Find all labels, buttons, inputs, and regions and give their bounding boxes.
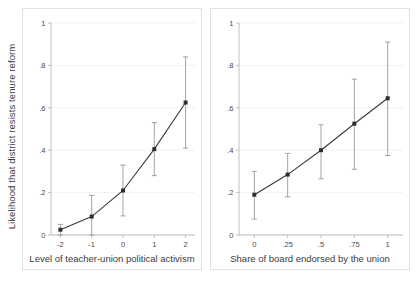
data-point-marker xyxy=(152,147,156,151)
data-point-marker xyxy=(386,96,390,100)
line-chart-left: 0.2.4.6.81-2-1012 xyxy=(23,9,201,269)
data-point-marker xyxy=(252,193,256,197)
plot-area-left: 0.2.4.6.81-2-1012 xyxy=(23,9,201,269)
y-tick-label: .2 xyxy=(39,188,45,197)
x-tick-label: 2 xyxy=(183,240,187,249)
x-tick-label: .5 xyxy=(318,240,324,249)
y-tick-label: .4 xyxy=(39,146,45,155)
x-tick-label: 1 xyxy=(152,240,156,249)
x-tick-label: .25 xyxy=(282,240,293,249)
data-point-marker xyxy=(319,148,323,152)
x-axis-title-right: Share of board endorsed by the union xyxy=(211,253,409,264)
y-tick-label: .6 xyxy=(39,104,45,113)
y-tick-label: 1 xyxy=(41,19,45,28)
y-tick-label: 0 xyxy=(41,231,45,240)
x-tick-label: 1 xyxy=(386,240,390,249)
y-tick-label: .8 xyxy=(39,61,45,70)
plot-area-right: 0.2.4.6.810.25.5.751 xyxy=(211,9,409,269)
x-tick-label: -1 xyxy=(88,240,95,249)
data-point-marker xyxy=(184,101,188,105)
y-axis-title-text: Likelihood that district resists tenure … xyxy=(7,43,18,229)
data-point-marker xyxy=(121,188,125,192)
x-axis-title-left: Level of teacher-union political activis… xyxy=(23,253,201,264)
data-point-marker xyxy=(58,228,62,232)
x-tick-label: 0 xyxy=(121,240,125,249)
y-tick-label: 0 xyxy=(229,231,233,240)
chart-panel-left: 0.2.4.6.81-2-1012 Level of teacher-union… xyxy=(22,8,202,270)
y-tick-label: 1 xyxy=(229,19,233,28)
chart-panel-right: 0.2.4.6.810.25.5.751 Share of board endo… xyxy=(210,8,410,270)
x-tick-label: 0 xyxy=(252,240,256,249)
y-axis-title: Likelihood that district resists tenure … xyxy=(2,0,22,272)
y-tick-label: .2 xyxy=(227,188,233,197)
data-point-marker xyxy=(286,173,290,177)
line-chart-right: 0.2.4.6.810.25.5.751 xyxy=(211,9,409,269)
y-tick-label: .8 xyxy=(227,61,233,70)
y-tick-label: .6 xyxy=(227,104,233,113)
data-point-marker xyxy=(352,122,356,126)
x-tick-label: -2 xyxy=(57,240,64,249)
y-tick-label: .4 xyxy=(227,146,233,155)
figure-container: Likelihood that district resists tenure … xyxy=(0,0,419,302)
x-tick-label: .75 xyxy=(349,240,360,249)
data-point-marker xyxy=(90,215,94,219)
